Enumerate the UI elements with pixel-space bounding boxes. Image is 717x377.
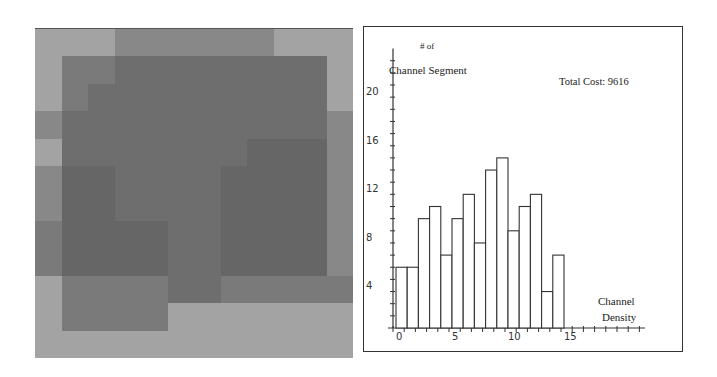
heatmap-cell xyxy=(88,111,115,138)
heatmap-cell xyxy=(300,248,327,275)
histogram-bar xyxy=(396,267,407,328)
histogram-bar xyxy=(553,255,564,328)
heatmap-cell xyxy=(115,111,142,138)
heatmap-cell xyxy=(35,56,62,83)
heatmap-cell xyxy=(141,331,168,358)
heatmap-cell xyxy=(327,56,354,83)
heatmap-cell xyxy=(115,331,142,358)
heatmap-cell xyxy=(274,276,301,303)
heatmap-cell xyxy=(141,248,168,275)
heatmap-cell xyxy=(247,221,274,248)
heatmap-cell xyxy=(194,248,221,275)
heatmap-cell xyxy=(88,221,115,248)
heatmap-cell xyxy=(62,139,89,166)
heatmap-cell xyxy=(327,111,354,138)
histogram-panel: 48121620051015 # of Channel Segment Tota… xyxy=(363,26,683,352)
heatmap-cell xyxy=(194,276,221,303)
heatmap-cell xyxy=(35,84,62,111)
heatmap-cell xyxy=(88,84,115,111)
y-tick-label: 16 xyxy=(366,135,379,146)
heatmap-cell xyxy=(247,111,274,138)
histogram-bar xyxy=(519,207,530,329)
heatmap-cell xyxy=(194,111,221,138)
histogram-bar xyxy=(508,231,519,328)
heatmap-cell xyxy=(141,193,168,220)
heatmap-cell xyxy=(141,139,168,166)
heatmap-cell xyxy=(300,331,327,358)
heatmap-cell xyxy=(115,193,142,220)
heatmap-cell xyxy=(300,166,327,193)
heatmap-cell xyxy=(62,331,89,358)
heatmap-cell xyxy=(247,166,274,193)
heatmap-cell xyxy=(221,29,248,56)
heatmap-cell xyxy=(300,276,327,303)
heatmap-cell xyxy=(221,139,248,166)
heatmap-cell xyxy=(300,139,327,166)
heatmap-cell xyxy=(221,166,248,193)
heatmap-cell xyxy=(35,166,62,193)
heatmap-cell xyxy=(274,193,301,220)
heatmap-cell xyxy=(327,84,354,111)
heatmap-cell xyxy=(62,84,89,111)
heatmap-cell xyxy=(274,248,301,275)
heatmap-cell xyxy=(194,166,221,193)
heatmap-cell xyxy=(221,303,248,330)
x-axis-label-line1: Channel xyxy=(598,295,635,307)
y-tick-label: 20 xyxy=(366,86,379,97)
heatmap-cell xyxy=(62,248,89,275)
heatmap-cell xyxy=(194,303,221,330)
heatmap-cell xyxy=(62,166,89,193)
heatmap-cell xyxy=(327,276,354,303)
heatmap-cell xyxy=(221,331,248,358)
heatmap-cell xyxy=(168,111,195,138)
heatmap-cell xyxy=(194,84,221,111)
heatmap-cell xyxy=(115,139,142,166)
heatmap-cell xyxy=(35,193,62,220)
histogram-bar xyxy=(530,194,541,328)
heatmap-cell xyxy=(274,56,301,83)
histogram-bar xyxy=(452,219,463,328)
heatmap-cell xyxy=(35,276,62,303)
histogram-chart: 48121620051015 # of Channel Segment Tota… xyxy=(364,27,684,353)
heatmap-cell xyxy=(115,29,142,56)
heatmap-cell xyxy=(115,56,142,83)
heatmap-cell xyxy=(221,221,248,248)
heatmap-cell xyxy=(168,193,195,220)
heatmap-cell xyxy=(327,193,354,220)
heatmap-cell xyxy=(141,166,168,193)
heatmap-cell xyxy=(327,303,354,330)
heatmap-cell xyxy=(141,303,168,330)
heatmap-cell xyxy=(327,221,354,248)
heatmap-cell xyxy=(168,248,195,275)
heatmap-cell xyxy=(194,56,221,83)
y-axis-label-line1: # of xyxy=(420,41,434,51)
heatmap-cell xyxy=(62,29,89,56)
heatmap-cell xyxy=(274,221,301,248)
heatmap-cell xyxy=(88,331,115,358)
histogram-bar xyxy=(497,158,508,328)
heatmap-cell xyxy=(194,193,221,220)
heatmap-cell xyxy=(194,331,221,358)
heatmap-cell xyxy=(274,84,301,111)
heatmap-cell xyxy=(194,221,221,248)
heatmap-cell xyxy=(300,303,327,330)
heatmap-cell xyxy=(300,111,327,138)
heatmap-cell xyxy=(274,139,301,166)
heatmap-cell xyxy=(141,111,168,138)
y-tick-label: 8 xyxy=(366,232,372,243)
heatmap-cell xyxy=(62,56,89,83)
heatmap-cell xyxy=(274,331,301,358)
heatmap-cell xyxy=(327,166,354,193)
heatmap-cell xyxy=(300,56,327,83)
heatmap-cell xyxy=(247,139,274,166)
heatmap-cell xyxy=(327,139,354,166)
heatmap-cell xyxy=(168,221,195,248)
heatmap-cell xyxy=(221,56,248,83)
heatmap-cell xyxy=(168,29,195,56)
heatmap-cell xyxy=(300,84,327,111)
heatmap-cell xyxy=(300,193,327,220)
heatmap-cell xyxy=(62,193,89,220)
heatmap-cell xyxy=(88,166,115,193)
heatmap-cell xyxy=(247,193,274,220)
heatmap-cell xyxy=(194,139,221,166)
